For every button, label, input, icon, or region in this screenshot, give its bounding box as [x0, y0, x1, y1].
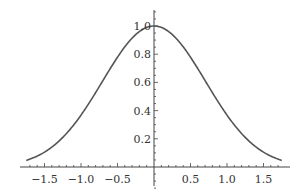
y-tick-label: 1.0	[134, 20, 152, 33]
x-tick-label: 0.5	[182, 173, 200, 186]
y-tick-label: 0.8	[134, 48, 152, 61]
x-tick-label: 1.0	[218, 173, 236, 186]
x-tick-label: −1.0	[68, 173, 95, 186]
x-tick-label: −1.5	[31, 173, 58, 186]
x-tick-label: −0.5	[104, 173, 131, 186]
axes	[20, 10, 290, 194]
y-tick-label: 0.6	[134, 76, 152, 89]
y-tick-label: 0.2	[134, 133, 152, 146]
tick-labels: −1.5−1.0−0.50.51.01.50.20.40.60.81.0	[31, 20, 272, 186]
x-tick-label: 1.5	[255, 173, 273, 186]
chart-plot: −1.5−1.0−0.50.51.01.50.20.40.60.81.0	[0, 0, 305, 194]
y-tick-label: 0.4	[134, 105, 152, 118]
